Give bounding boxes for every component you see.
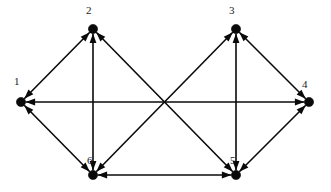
edge-5-6-arrowhead-to-6	[98, 172, 108, 179]
edge-3-5-arrowhead-to-3	[233, 34, 240, 44]
edge-1-4-arrowhead-to-1	[26, 99, 35, 106]
edge-1-6	[24, 105, 90, 171]
node-label-6: 6	[87, 155, 93, 166]
edge-1-4-arrowhead-to-4	[295, 99, 305, 106]
node-3[interactable]	[231, 24, 240, 33]
edge-1-2	[24, 32, 90, 98]
edges-layer	[24, 32, 306, 175]
node-2[interactable]	[88, 24, 97, 33]
edge-5-6-arrowhead-to-5	[222, 172, 232, 179]
node-6[interactable]	[88, 170, 97, 179]
edge-2-6-arrowhead-to-2	[90, 34, 97, 44]
node-5[interactable]	[231, 170, 240, 179]
node-label-3: 3	[229, 5, 235, 16]
node-label-1: 1	[14, 76, 20, 87]
arrowheads-layer	[24, 32, 306, 178]
node-4[interactable]	[304, 97, 313, 106]
graph-canvas	[0, 0, 331, 192]
node-1[interactable]	[16, 97, 25, 106]
edge-4-5	[239, 105, 305, 171]
node-label-5: 5	[230, 155, 236, 166]
graph-diagram: 123456	[0, 0, 331, 192]
node-label-2: 2	[86, 5, 92, 16]
node-label-4: 4	[302, 79, 308, 90]
edge-3-4	[239, 32, 305, 98]
